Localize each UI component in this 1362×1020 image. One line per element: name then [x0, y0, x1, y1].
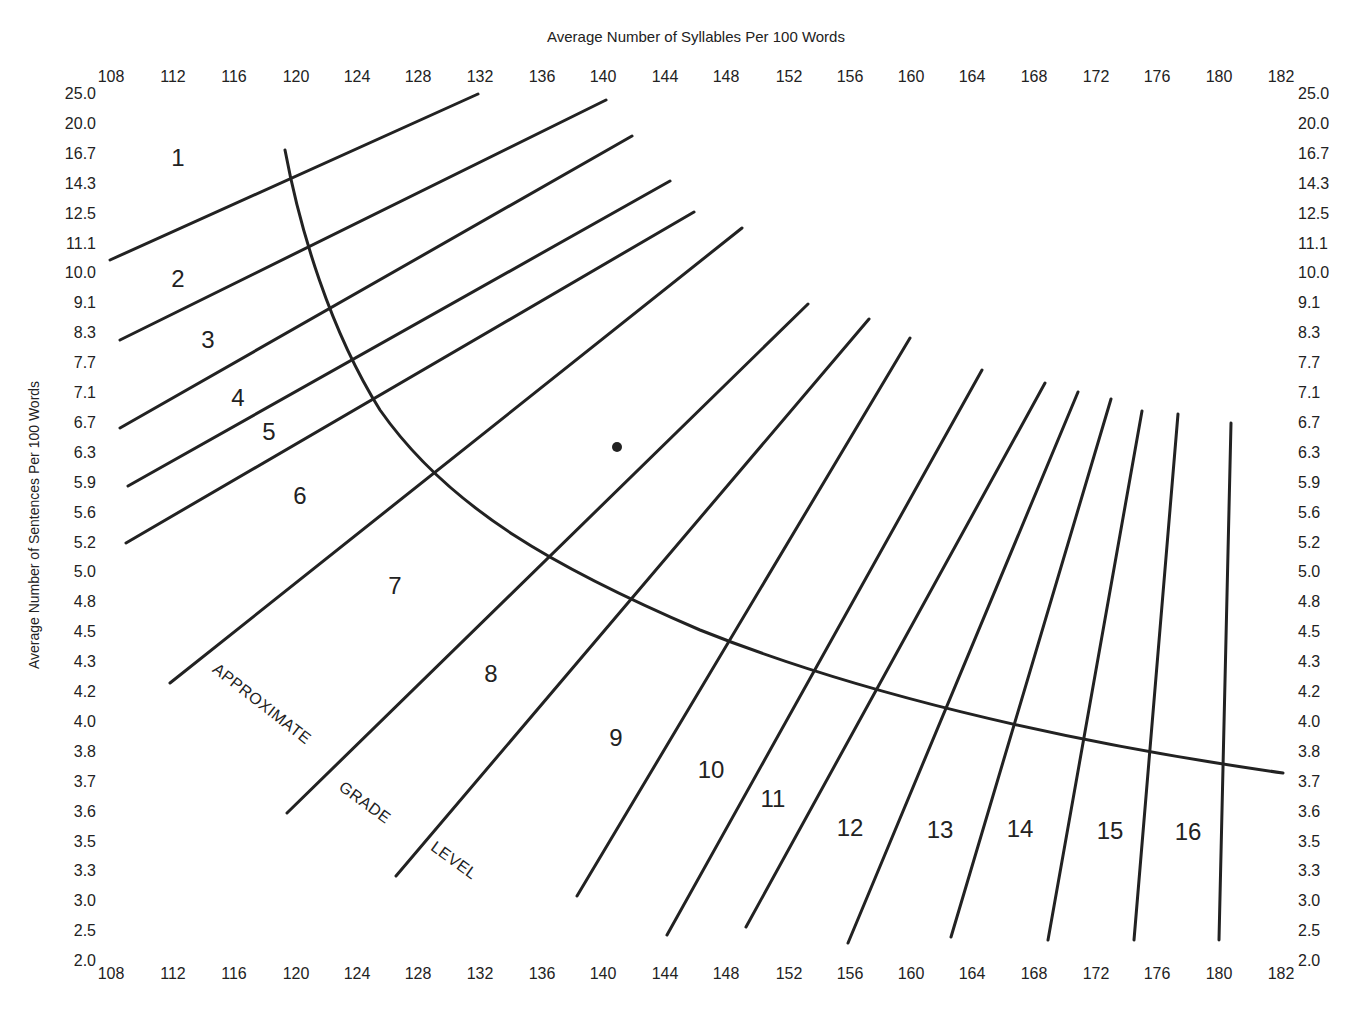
grade-label: 9: [609, 724, 622, 752]
grade-label: 6: [293, 482, 306, 510]
grade-label: 10: [698, 756, 725, 784]
grade-label: 15: [1097, 817, 1124, 845]
grade-label: 1: [171, 144, 184, 172]
grade-label: 14: [1007, 815, 1034, 843]
grade-label: 8: [484, 660, 497, 688]
plotted-point: [612, 442, 622, 452]
grade-label: 16: [1175, 818, 1202, 846]
grade-label: 13: [927, 816, 954, 844]
grade-label: 3: [201, 326, 214, 354]
grade-label: 5: [262, 418, 275, 446]
fry-graph-lines: [0, 0, 1362, 1020]
grade-label: 11: [761, 785, 786, 813]
grade-label: 7: [388, 572, 401, 600]
grade-label: 2: [171, 265, 184, 293]
grade-label: 4: [231, 384, 244, 412]
grade-label: 12: [837, 814, 864, 842]
